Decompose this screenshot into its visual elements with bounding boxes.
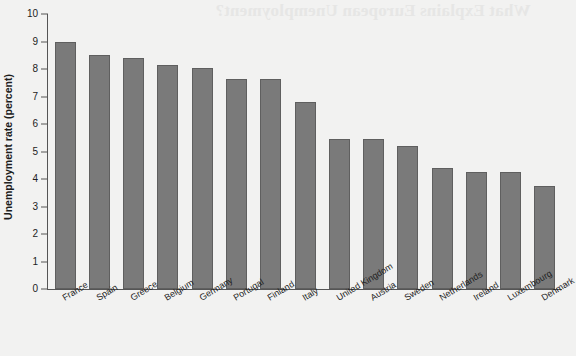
y-axis-tick-mark	[41, 124, 48, 125]
bar	[397, 146, 418, 289]
y-axis-tick-label: 6	[32, 117, 38, 130]
y-axis-tick-label: 4	[32, 172, 38, 185]
bar	[89, 55, 110, 289]
y-axis-tick-label: 2	[32, 227, 38, 240]
y-axis-tick-mark	[41, 41, 48, 42]
plot-area: 109876543210	[47, 14, 562, 290]
bar	[260, 79, 281, 289]
y-axis-tick-mark	[41, 179, 48, 180]
y-axis-tick-mark	[41, 289, 48, 290]
y-axis-tick-label: 7	[32, 89, 38, 102]
y-axis-tick-mark	[41, 206, 48, 207]
x-axis-labels: FranceSpainGreeceBelgiumGermanyPortugalF…	[47, 291, 564, 356]
y-axis-tick-label: 5	[32, 144, 38, 157]
y-axis-tick-mark	[41, 69, 48, 70]
bar	[295, 102, 316, 289]
y-axis-tick-label: 8	[32, 62, 38, 75]
bar	[55, 42, 76, 290]
y-axis-tick-label: 0	[32, 282, 38, 295]
y-axis-tick-label: 10	[27, 7, 38, 20]
y-axis-tick-mark	[41, 234, 48, 235]
bar	[432, 168, 453, 289]
bar	[226, 79, 247, 289]
bar	[329, 139, 350, 289]
y-axis-tick-mark	[41, 14, 48, 15]
y-axis-tick-mark	[41, 261, 48, 262]
y-axis-tick-label: 1	[32, 254, 38, 267]
y-axis-tick-label: 3	[32, 199, 38, 212]
bar	[500, 172, 521, 289]
y-axis-tick-label: 9	[32, 34, 38, 47]
bar	[123, 58, 144, 289]
y-axis-title: Unemployment rate (percent)	[2, 2, 20, 292]
y-axis-tick-mark	[41, 96, 48, 97]
bars-layer	[48, 14, 562, 289]
bar	[192, 68, 213, 289]
y-axis-tick-mark	[41, 151, 48, 152]
bar	[157, 65, 178, 289]
